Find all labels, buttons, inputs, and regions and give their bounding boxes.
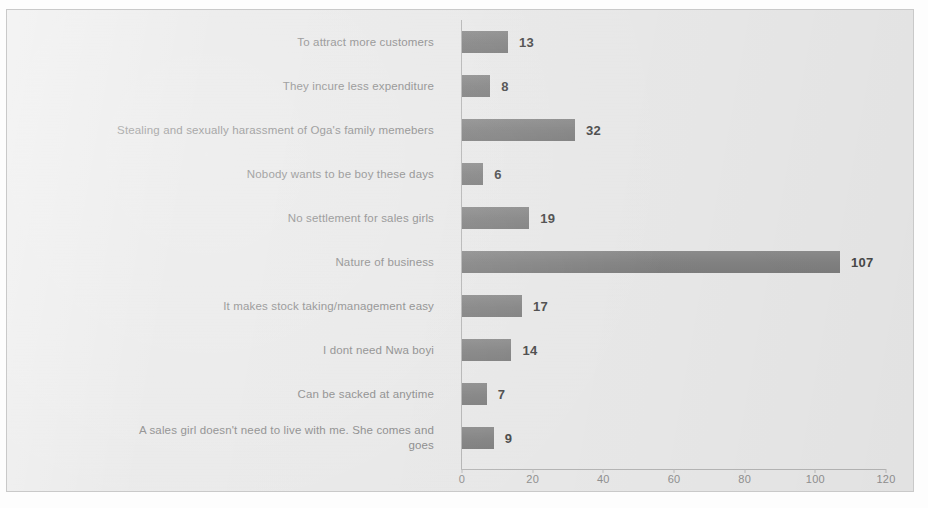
category-label: No settlement for sales girls xyxy=(14,196,434,240)
x-tick-label: 20 xyxy=(526,473,539,485)
bar xyxy=(462,31,508,53)
category-label: It makes stock taking/management easy xyxy=(14,284,434,328)
category-label: A sales girl doesn't need to live with m… xyxy=(14,416,434,460)
bar-value-label: 6 xyxy=(494,163,502,185)
bar-value-label: 107 xyxy=(851,251,874,273)
bar xyxy=(462,295,522,317)
bar-row: They incure less expenditure8 xyxy=(7,64,913,108)
bar-row: It makes stock taking/management easy17 xyxy=(7,284,913,328)
bar-row: Can be sacked at anytime7 xyxy=(7,372,913,416)
bar-value-label: 19 xyxy=(540,207,555,229)
bar-row: I dont need Nwa boyi14 xyxy=(7,328,913,372)
category-label: Can be sacked at anytime xyxy=(14,372,434,416)
category-label: I dont need Nwa boyi xyxy=(14,328,434,372)
x-tick-label: 100 xyxy=(806,473,825,485)
category-label: Nature of business xyxy=(14,240,434,284)
x-tick-label: 40 xyxy=(597,473,610,485)
chart-frame: To attract more customers13They incure l… xyxy=(6,9,914,492)
category-label: They incure less expenditure xyxy=(14,64,434,108)
bar-row: Nature of business107 xyxy=(7,240,913,284)
x-tick-label: 80 xyxy=(738,473,751,485)
bar-value-label: 32 xyxy=(586,119,601,141)
bar-row: Nobody wants to be boy these days6 xyxy=(7,152,913,196)
bar xyxy=(462,339,511,361)
bar xyxy=(462,163,483,185)
bar xyxy=(462,427,494,449)
category-label: Stealing and sexually harassment of Oga'… xyxy=(14,108,434,152)
bar-row: No settlement for sales girls19 xyxy=(7,196,913,240)
plot-area: To attract more customers13They incure l… xyxy=(7,10,913,491)
category-label: To attract more customers xyxy=(14,20,434,64)
bar-value-label: 7 xyxy=(498,383,506,405)
bar xyxy=(462,75,490,97)
bar-value-label: 14 xyxy=(522,339,537,361)
bar-row: Stealing and sexually harassment of Oga'… xyxy=(7,108,913,152)
bar-value-label: 8 xyxy=(501,75,509,97)
figure: To attract more customers13They incure l… xyxy=(0,0,928,508)
bar xyxy=(462,383,487,405)
category-label: Nobody wants to be boy these days xyxy=(14,152,434,196)
bar xyxy=(462,119,575,141)
x-tick-label: 120 xyxy=(877,473,896,485)
bar-value-label: 9 xyxy=(505,427,513,449)
bar-row: To attract more customers13 xyxy=(7,20,913,64)
bar-row: A sales girl doesn't need to live with m… xyxy=(7,416,913,460)
bar-value-label: 13 xyxy=(519,31,534,53)
bar xyxy=(462,207,529,229)
x-tick-label: 0 xyxy=(459,473,465,485)
x-tick-label: 60 xyxy=(668,473,681,485)
bar xyxy=(462,251,840,273)
bar-value-label: 17 xyxy=(533,295,548,317)
